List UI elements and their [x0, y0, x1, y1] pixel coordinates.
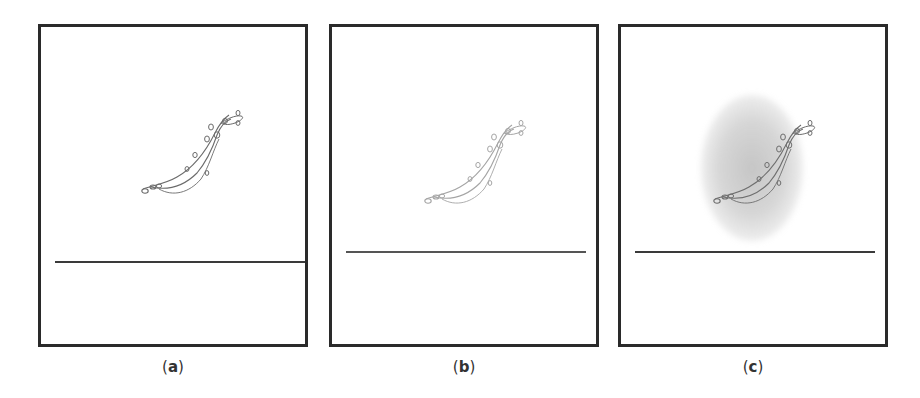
sketch-drawing-c: [621, 27, 891, 350]
ground-line-c: [635, 251, 875, 253]
panel-b: [329, 24, 599, 347]
panel-label-b: (b): [434, 358, 494, 376]
panel-a: [38, 24, 308, 347]
sketch-drawing-a: [41, 27, 311, 350]
panel-c: [618, 24, 888, 347]
sketch-drawing-b: [332, 27, 602, 350]
panel-label-c: (c): [723, 358, 783, 376]
ground-line-a: [55, 261, 305, 263]
panel-label-a: (a): [143, 358, 203, 376]
ground-line-b: [346, 251, 586, 253]
